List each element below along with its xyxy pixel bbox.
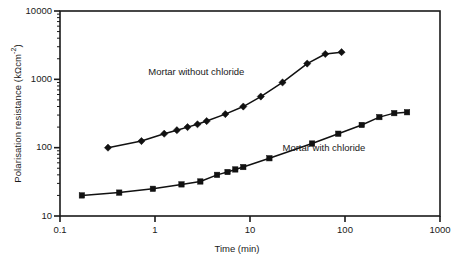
y-tick-label: 1000 xyxy=(0,73,52,84)
data-point-diamond xyxy=(240,103,247,110)
data-point-diamond xyxy=(194,121,201,128)
data-point-square xyxy=(150,186,155,191)
data-point-square xyxy=(267,156,272,161)
series-annotation: Mortar without chloride xyxy=(148,66,244,77)
x-tick-label: 100 xyxy=(320,224,370,235)
data-point-diamond xyxy=(222,110,229,117)
series-annotation: Mortar with chloride xyxy=(283,142,366,153)
x-tick-label: 1000 xyxy=(415,224,460,235)
y-tick-label: 10 xyxy=(0,210,52,221)
y-axis-ticks xyxy=(54,11,60,216)
data-point-square xyxy=(377,114,382,119)
data-point-square xyxy=(233,167,238,172)
data-point-diamond xyxy=(104,144,111,151)
x-tick-label: 1 xyxy=(130,224,180,235)
chart-figure: Polarisation resistance (kΩcm-2) Time (m… xyxy=(0,0,460,264)
data-series-layer xyxy=(79,49,410,199)
series-2 xyxy=(79,110,410,199)
y-axis-label-exponent: -2 xyxy=(10,48,17,54)
x-axis-label-text: Time (min) xyxy=(214,243,259,254)
data-point-square xyxy=(117,190,122,195)
data-point-square xyxy=(336,131,341,136)
data-point-diamond xyxy=(203,117,210,124)
data-point-diamond xyxy=(138,137,145,144)
data-point-diamond xyxy=(161,130,168,137)
plot-border xyxy=(60,11,440,216)
series-line xyxy=(82,112,407,195)
x-axis-label: Time (min) xyxy=(0,243,460,254)
data-point-square xyxy=(392,110,397,115)
data-point-square xyxy=(79,193,84,198)
data-point-square xyxy=(241,164,246,169)
series-1 xyxy=(104,49,345,152)
y-tick-label: 10000 xyxy=(0,5,52,16)
data-point-square xyxy=(198,179,203,184)
data-point-diamond xyxy=(173,127,180,134)
data-point-diamond xyxy=(322,50,329,57)
data-point-diamond xyxy=(338,49,345,56)
x-axis-ticks xyxy=(60,216,440,222)
data-point-square xyxy=(179,182,184,187)
y-axis-label-tail: ) xyxy=(12,44,23,47)
y-tick-label: 100 xyxy=(0,141,52,152)
x-tick-label: 10 xyxy=(225,224,275,235)
plot-frame xyxy=(60,11,440,216)
y-axis-label: Polarisation resistance (kΩcm-2) xyxy=(12,9,23,219)
data-point-square xyxy=(359,122,364,127)
x-tick-label: 0.1 xyxy=(35,224,85,235)
data-point-square xyxy=(214,172,219,177)
data-point-square xyxy=(225,169,230,174)
data-point-square xyxy=(404,110,409,115)
data-point-diamond xyxy=(184,124,191,131)
